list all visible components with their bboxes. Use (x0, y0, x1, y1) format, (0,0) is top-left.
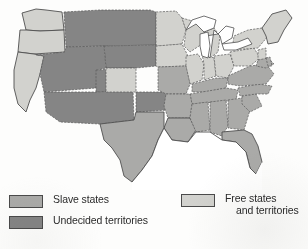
region-missouri (158, 66, 190, 94)
region-washington-territory (22, 9, 64, 31)
legend-column-right: Free states and territories (181, 193, 299, 223)
legend-label-free-states-line1: Free states (225, 192, 276, 204)
us-map-svg: .rg { stroke: #5a5a5a; stroke-width: 0.7… (0, 0, 308, 190)
legend-label-free-states: Free states and territories (225, 193, 299, 216)
region-kansas (106, 68, 136, 92)
region-dakota-territory (64, 10, 156, 47)
legend-label-undecided-territories: Undecided territories (53, 215, 148, 227)
legend-swatch-free-states (181, 194, 215, 207)
region-california (14, 52, 44, 112)
region-pennsylvania (230, 48, 260, 66)
region-nebraska-territory (104, 45, 156, 68)
region-oregon (18, 30, 65, 54)
map-figure: .rg { stroke: #5a5a5a; stroke-width: 0.7… (0, 0, 308, 249)
legend-column-left: Slave states Undecided territories (9, 194, 148, 236)
legend-item-free-states: Free states and territories (181, 193, 299, 216)
region-new-england (262, 10, 292, 44)
region-minnesota (156, 11, 186, 46)
region-new-mexico-territory (44, 90, 134, 124)
region-indian-territory (136, 92, 168, 112)
legend-label-slave-states: Slave states (53, 194, 109, 206)
region-arkansas (164, 94, 192, 118)
water-lake-michigan (200, 32, 210, 58)
legend-swatch-undecided-territories (9, 216, 43, 229)
legend-swatch-slave-states (9, 195, 43, 208)
legend: Slave states Undecided territories Free … (0, 190, 308, 249)
legend-item-undecided-territories: Undecided territories (9, 215, 148, 229)
legend-item-slave-states: Slave states (9, 194, 148, 208)
map-area: .rg { stroke: #5a5a5a; stroke-width: 0.7… (0, 0, 308, 190)
region-ohio (214, 54, 234, 78)
region-alabama (210, 100, 228, 136)
legend-label-free-states-line2: and territories (225, 205, 299, 217)
region-new-jersey (258, 48, 266, 60)
region-iowa (156, 44, 188, 67)
